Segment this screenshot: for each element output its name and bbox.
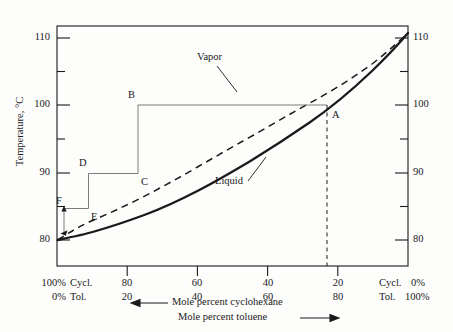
x-tick-label-bottom-80: 80 bbox=[318, 292, 358, 303]
x-tick-label-top-20: 20 bbox=[318, 278, 358, 289]
point-label-a: A bbox=[332, 110, 340, 121]
y-tick-label-left-110: 110 bbox=[20, 32, 50, 43]
x-axis-ticks bbox=[127, 266, 338, 276]
x-tick-label-top-40: 40 bbox=[248, 278, 288, 289]
x-axis-title-cyclohexane: Mole percent cyclohexane bbox=[172, 297, 283, 308]
y-tick-label-right-100: 100 bbox=[413, 99, 429, 110]
point-label-d: D bbox=[79, 158, 87, 169]
y-axis-right-ticks bbox=[395, 38, 408, 240]
y-tick-label-left-80: 80 bbox=[20, 234, 50, 245]
plot-frame bbox=[57, 26, 408, 266]
y-tick-label-right-110: 110 bbox=[413, 32, 428, 43]
x-axis-left-corner-percent-bottom: 0% bbox=[24, 292, 66, 303]
liquid-curve-label: Liquid bbox=[215, 176, 243, 187]
y-tick-label-left-100: 100 bbox=[20, 99, 50, 110]
arrow-head-toluene bbox=[330, 315, 339, 322]
x-tick-label-top-60: 60 bbox=[177, 278, 217, 289]
x-axis-left-corner-name-top: Cycl. bbox=[70, 278, 92, 289]
construction-lines bbox=[64, 105, 327, 232]
x-axis-title-toluene: Mole percent toluene bbox=[178, 312, 267, 323]
x-axis-right-corner-percent-bottom: 100% bbox=[405, 292, 430, 303]
point-label-b: B bbox=[128, 90, 135, 101]
x-tick-label-bottom-20: 20 bbox=[107, 292, 147, 303]
phase-diagram-figure: Temperature, °C 110 100 90 80 110 100 90… bbox=[0, 0, 453, 332]
point-label-f: F bbox=[56, 196, 62, 207]
point-label-c: C bbox=[141, 177, 148, 188]
x-axis-right-corner-percent-top: 0% bbox=[411, 278, 425, 289]
vapor-curve bbox=[58, 33, 408, 240]
liquid-curve bbox=[58, 33, 408, 240]
x-axis-left-corner-name-bottom: Tol. bbox=[70, 292, 86, 303]
x-tick-label-top-80: 80 bbox=[107, 278, 147, 289]
vapor-leader-line bbox=[217, 66, 237, 92]
x-axis-left-corner-percent-top: 100% bbox=[24, 278, 66, 289]
y-tick-label-right-80: 80 bbox=[413, 234, 424, 245]
vapor-curve-label: Vapor bbox=[197, 52, 222, 63]
x-axis-right-corner-name-top: Cycl. bbox=[379, 278, 401, 289]
x-axis-right-corner-name-bottom: Tol. bbox=[379, 292, 395, 303]
y-tick-label-right-90: 90 bbox=[413, 167, 424, 178]
point-label-e: E bbox=[91, 212, 97, 223]
y-tick-label-left-90: 90 bbox=[20, 167, 50, 178]
